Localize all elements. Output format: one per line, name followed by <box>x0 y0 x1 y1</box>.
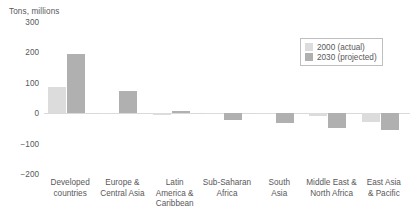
y-axis-tick-label: 300 <box>25 18 39 27</box>
bar-projected <box>172 111 190 113</box>
bar-actual <box>362 113 380 122</box>
y-axis-title: Tons, millions <box>9 7 60 16</box>
bar-projected <box>328 113 346 128</box>
bar-projected <box>276 113 294 123</box>
bar-group <box>201 22 253 174</box>
bar-group <box>149 22 201 174</box>
legend-label-actual: 2000 (actual) <box>317 43 365 52</box>
bar-actual <box>100 113 118 114</box>
legend-item-projected: 2030 (projected) <box>305 52 377 62</box>
bar-group <box>96 22 148 174</box>
y-axis-tick-label: −200 <box>21 170 39 179</box>
bar-actual <box>257 113 275 114</box>
bar-projected <box>381 113 399 130</box>
bar-actual <box>205 113 223 114</box>
legend-swatch-actual <box>305 43 313 51</box>
bar-projected <box>119 91 137 113</box>
bar-projected <box>224 113 242 120</box>
y-axis-tick-label: −100 <box>21 139 39 148</box>
x-axis-category-label: East Asia & Pacific <box>352 178 414 199</box>
chart-legend: 2000 (actual) 2030 (projected) <box>300 38 383 66</box>
bar-projected <box>67 54 85 113</box>
bar-chart: Tons, millions 3002001000−100−200 2000 (… <box>0 0 414 218</box>
bar-actual <box>153 113 171 115</box>
bar-actual <box>309 113 327 116</box>
y-axis-tick-label: 200 <box>25 48 39 57</box>
bar-actual <box>48 87 66 113</box>
legend-swatch-projected <box>305 53 313 61</box>
legend-item-actual: 2000 (actual) <box>305 42 377 52</box>
bar-group <box>44 22 96 174</box>
bar-group <box>253 22 305 174</box>
legend-label-projected: 2030 (projected) <box>317 53 377 62</box>
y-axis-tick-label: 100 <box>25 78 39 87</box>
y-axis-tick-label: 0 <box>34 109 39 118</box>
